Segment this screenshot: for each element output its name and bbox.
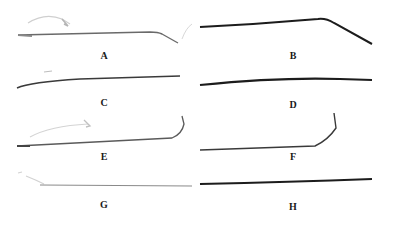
panel-c-specimen <box>17 71 180 88</box>
panel-e-specimen <box>17 116 184 146</box>
panel-label-d: D <box>289 100 296 110</box>
panel-label-h: H <box>289 202 297 212</box>
panel-label-c: C <box>100 98 107 108</box>
panel-d-specimen <box>200 79 372 85</box>
figure-canvas <box>0 0 394 225</box>
panel-h-specimen <box>200 179 372 184</box>
panel-label-e: E <box>101 152 108 162</box>
specimen-figure: A B C D E F G H <box>0 0 394 225</box>
panel-label-b: B <box>290 51 297 61</box>
panel-b-specimen <box>200 19 372 44</box>
panel-label-f: F <box>290 152 296 162</box>
panel-label-g: G <box>100 200 108 210</box>
panel-f-specimen <box>200 113 336 150</box>
panel-label-a: A <box>100 51 107 61</box>
panel-g-specimen <box>18 172 192 186</box>
panel-a-specimen <box>18 16 192 43</box>
